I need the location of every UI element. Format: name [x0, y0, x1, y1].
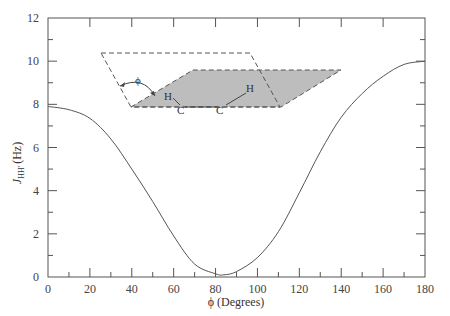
x-axis-title: ϕ (Degrees): [208, 295, 265, 309]
svg-text:JHH'(Hz): JHH'(Hz): [10, 142, 26, 184]
atom-c-left: C: [177, 104, 184, 116]
y-axis-title: JHH'(Hz): [10, 142, 26, 184]
y-tick-label: 8: [33, 97, 39, 111]
x-tick-label: 180: [416, 282, 434, 296]
axis-tick-labels: 020406080100120140160180024681012: [27, 11, 434, 296]
dihedral-angle-diagram: H C C H ϕ: [101, 53, 341, 116]
shaded-plane: [131, 70, 341, 107]
x-tick-label: 120: [290, 282, 308, 296]
plot-frame: [48, 18, 425, 277]
x-tick-label: 160: [374, 282, 392, 296]
y-axis-title-sub: HH': [17, 165, 26, 179]
x-tick-label: 20: [84, 282, 96, 296]
y-tick-label: 12: [27, 11, 39, 25]
axis-ticks: [48, 18, 425, 277]
x-tick-label: 140: [332, 282, 350, 296]
y-tick-label: 10: [27, 54, 39, 68]
phi-angle-label: ϕ: [135, 74, 141, 86]
y-tick-label: 0: [33, 270, 39, 284]
arrowhead-left: [120, 82, 125, 87]
atom-h-right: H: [246, 82, 254, 94]
y-tick-label: 4: [33, 184, 39, 198]
x-tick-label: 60: [168, 282, 180, 296]
y-tick-label: 6: [33, 141, 39, 155]
x-tick-label: 80: [210, 282, 222, 296]
atom-h-left: H: [164, 90, 172, 102]
x-tick-label: 0: [45, 282, 51, 296]
x-tick-label: 40: [126, 282, 138, 296]
x-tick-label: 100: [248, 282, 266, 296]
karplus-chart: H C C H ϕ 020406080100120140160180024681…: [0, 0, 450, 316]
y-axis-title-unit: (Hz): [10, 142, 24, 164]
y-tick-label: 2: [33, 227, 39, 241]
atom-c-right: C: [216, 104, 223, 116]
